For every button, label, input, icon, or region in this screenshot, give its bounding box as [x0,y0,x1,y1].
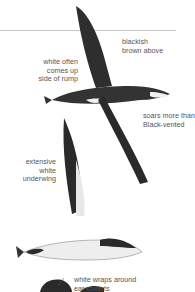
annotation-ear-coverts: white wraps around ear coverts [74,276,136,292]
bird-upper-illustration [44,6,170,184]
annotation-soars-more: soars more than Black-vented [143,112,195,129]
annotation-white-underwing: extensive white underwing [14,158,56,184]
bird-illustrations [0,0,195,292]
annotation-blackish-brown-above: blackish brown above [122,38,163,55]
annotation-white-rump: white often comes up side of rump [34,58,78,84]
